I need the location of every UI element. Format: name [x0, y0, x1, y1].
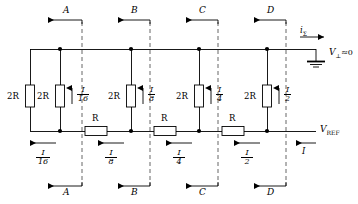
branch-current-label-c: I 4	[216, 86, 223, 104]
node-dot-top-b	[129, 47, 133, 51]
bottom-arrow-b	[118, 182, 150, 186]
branch-current-num-c: I	[216, 86, 223, 94]
node-dot-top-a	[58, 47, 62, 51]
top-arrow-a	[48, 20, 82, 24]
node-dot-bottom-d	[265, 129, 269, 133]
branch-current-den-b: 8	[148, 94, 155, 103]
reference-rail-subscript: REF	[327, 129, 340, 136]
resistor-2r-c	[195, 85, 204, 107]
resistor-label-2r-termination: 2R	[7, 92, 19, 101]
branch-current-den-c: 4	[216, 94, 223, 103]
output-current-subscript: Σ	[303, 30, 307, 37]
rail-current-num-c: I	[173, 149, 185, 157]
branch-current-label-d: I 2	[284, 86, 291, 104]
virtual-ground-value: ≈0	[341, 48, 353, 57]
bottom-arrow-a	[48, 182, 82, 186]
ground-symbol	[307, 49, 325, 67]
rail-current-label-d: I 2	[241, 149, 253, 167]
branch-current-label-b: I 8	[148, 86, 155, 104]
top-arrow-b	[118, 20, 150, 24]
resistor-label-r-bc: R	[161, 114, 167, 123]
resistor-label-2r-c: 2R	[176, 92, 188, 101]
bottom-switch-label-d: D	[267, 188, 274, 197]
bottom-arrow-c	[186, 182, 218, 186]
source-current-label: I	[302, 147, 305, 156]
rail-current-den-b: 8	[105, 157, 117, 166]
resistor-r-cd	[222, 127, 244, 136]
resistor-label-2r-d: 2R	[244, 92, 256, 101]
branch-current-num-a: I	[77, 86, 89, 94]
resistor-2r-b	[127, 85, 136, 107]
rail-current-den-c: 4	[173, 157, 185, 166]
node-dot-bottom-a	[58, 129, 62, 133]
virtual-ground-label: V⊥≈0	[329, 48, 353, 59]
node-dot-bottom-b	[129, 129, 133, 133]
bottom-switch-label-a: A	[63, 188, 70, 197]
resistor-2r-a	[56, 85, 65, 107]
top-switch-label-d: D	[267, 6, 274, 15]
rail-current-label-a: I 16	[36, 149, 50, 167]
reference-rail-label: VREF	[320, 125, 340, 136]
branch-current-den-a: 16	[77, 94, 89, 103]
rail-current-num-b: I	[105, 149, 117, 157]
rail-current-label-b: I 8	[105, 149, 117, 167]
resistor-label-2r-a: 2R	[37, 92, 49, 101]
bottom-arrow-d	[254, 182, 286, 186]
resistor-label-r-cd: R	[229, 114, 235, 123]
top-arrow-c	[186, 20, 218, 24]
node-dot-top-d	[265, 47, 269, 51]
node-dot-bottom-c	[197, 129, 201, 133]
resistor-2r-d	[263, 85, 272, 107]
branch-current-num-d: I	[284, 86, 291, 94]
bottom-switch-label-b: B	[131, 188, 138, 197]
rail-current-num-d: I	[241, 149, 253, 157]
top-switch-label-b: B	[131, 6, 138, 15]
rail-current-label-c: I 4	[173, 149, 185, 167]
resistor-label-r-ab: R	[92, 114, 98, 123]
rail-current-den-d: 2	[241, 157, 253, 166]
bottom-switch-label-c: C	[199, 188, 206, 197]
node-dot-top-c	[197, 47, 201, 51]
resistor-r-ab	[85, 127, 107, 136]
top-switch-label-a: A	[63, 6, 70, 15]
resistor-label-2r-b: 2R	[108, 92, 120, 101]
rail-current-num-a: I	[36, 149, 50, 157]
rail-current-den-a: 16	[36, 157, 50, 166]
branch-current-num-b: I	[148, 86, 155, 94]
top-arrow-d	[254, 20, 286, 24]
resistor-2r-termination	[26, 85, 35, 107]
top-switch-label-c: C	[199, 6, 206, 15]
output-current-label: iΣ	[300, 26, 307, 37]
branch-current-label-a: I 16	[77, 86, 89, 104]
branch-current-den-d: 2	[284, 94, 291, 103]
r2r-ladder-diagram: A B C D A B C D 2R 2R 2R 2R 2R R R R I 1…	[0, 0, 358, 204]
resistor-r-bc	[154, 127, 176, 136]
